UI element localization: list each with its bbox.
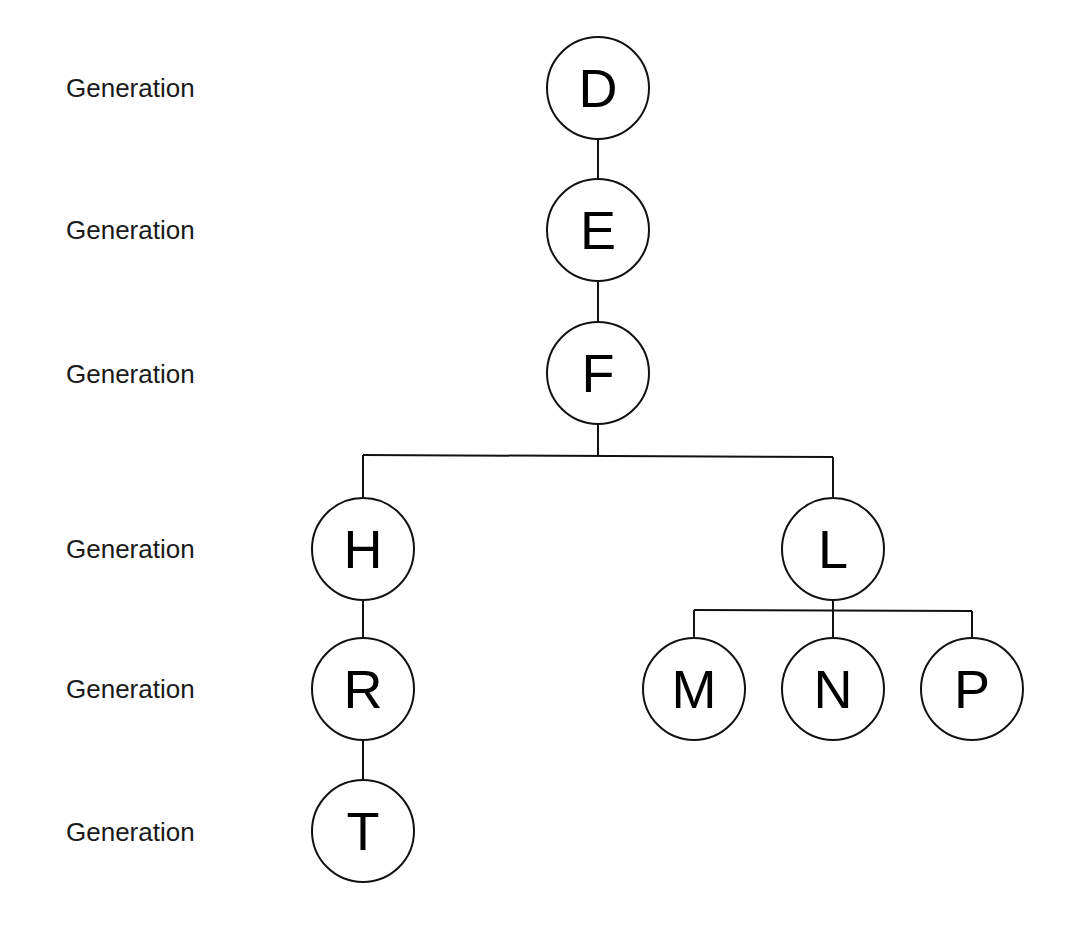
generation-label-6: Generation — [66, 817, 195, 848]
node-p-label: P — [954, 662, 990, 716]
node-h: H — [311, 497, 415, 601]
branch-f-horizontal — [363, 455, 833, 457]
generation-label-4: Generation — [66, 534, 195, 565]
node-n: N — [781, 637, 885, 741]
node-h-label: H — [344, 522, 383, 576]
node-d: D — [546, 36, 650, 140]
pedigree-tree-diagram: Generation Generation Generation Generat… — [0, 0, 1076, 928]
node-d-label: D — [579, 61, 618, 115]
generation-label-2: Generation — [66, 215, 195, 246]
node-n-label: N — [814, 662, 853, 716]
node-f: F — [546, 321, 650, 425]
node-r-label: R — [344, 662, 383, 716]
node-m: M — [642, 637, 746, 741]
node-p: P — [920, 637, 1024, 741]
branch-l-horizontal — [694, 610, 972, 611]
node-f-label: F — [582, 346, 615, 400]
node-e-label: E — [580, 203, 616, 257]
node-r: R — [311, 637, 415, 741]
generation-label-1: Generation — [66, 73, 195, 104]
node-t: T — [311, 779, 415, 883]
node-t-label: T — [347, 804, 380, 858]
node-m-label: M — [672, 662, 717, 716]
generation-label-3: Generation — [66, 359, 195, 390]
generation-label-5: Generation — [66, 674, 195, 705]
node-l-label: L — [818, 522, 848, 576]
connector-lines — [0, 0, 1076, 928]
node-e: E — [546, 178, 650, 282]
node-l: L — [781, 497, 885, 601]
